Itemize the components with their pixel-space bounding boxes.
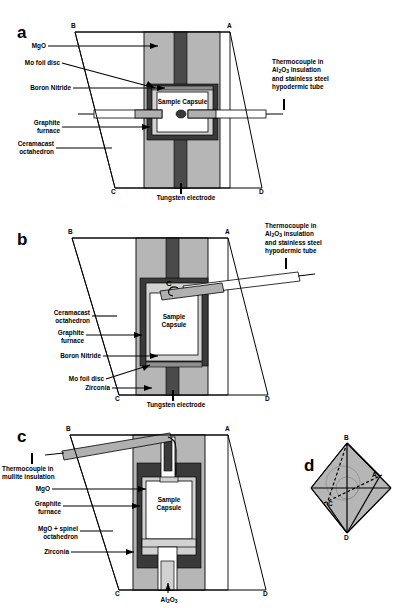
label-a-ceramacast-octahedron: Ceramacast octahedron	[0, 140, 54, 155]
panel-d-vertex-a: A	[372, 471, 377, 478]
mo-foil-disc-bottom	[146, 362, 202, 367]
panel-a-vertex-d: D	[259, 188, 264, 195]
panel-b-vertex-d: D	[265, 395, 270, 402]
label-a-mgo: MgO	[0, 42, 46, 50]
panel-a-section-tick-bottom	[180, 183, 182, 194]
panel-d-drawing	[0, 425, 402, 565]
label-b-thermocouple-note: Thermocouple inAl2O3 insulationand stain…	[265, 222, 393, 254]
label-a-graphite-furnace: Graphite furnace	[0, 119, 60, 134]
thermocouple-sheath-left	[135, 110, 162, 118]
panel-a: a MgO	[0, 0, 402, 200]
label-b-mo-foil-disc: Mo foil disc	[0, 375, 104, 383]
thermocouple-junction	[176, 110, 186, 118]
panel-d-vertex-d: D	[344, 534, 349, 541]
caption-a-tungsten-electrode: Tungsten electrode	[150, 194, 222, 202]
panel-b-section-tick-bottom	[172, 390, 174, 401]
thermocouple-sheath-right	[188, 110, 216, 118]
label-a-mo-foil-disc: Mo foil disc	[0, 59, 60, 67]
panel-c-vertex-d: D	[263, 590, 268, 597]
panel-a-vertex-a: A	[227, 22, 232, 29]
label-a-sample-capsule: Sample Capsule	[157, 98, 208, 106]
panel-b: b Ceramacast octahedron Graphite furnace…	[0, 210, 402, 405]
panel-b-section-tick-right	[285, 258, 287, 269]
panel-d-vertex-b: B	[344, 434, 349, 441]
panel-d: d B A C D	[0, 425, 402, 565]
panel-a-section-tick-right	[283, 99, 285, 110]
label-a-boron-nitride: Boron Nitride	[0, 84, 71, 92]
label-b-ceramacast-octahedron: Ceramacast octahedron	[0, 309, 90, 324]
label-b-zirconia: Zirconia	[0, 384, 110, 392]
panel-c-vertex-c: C	[115, 590, 120, 597]
panel-b-vertex-a: A	[225, 228, 230, 235]
label-a-thermocouple-note: Thermocouple inAl2O3 insulationand stain…	[272, 58, 397, 90]
label-b-graphite-furnace: Graphite furnace	[0, 329, 84, 344]
thermocouple-wire	[298, 274, 315, 276]
caption-b-tungsten-electrode: Tungsten electrode	[140, 401, 212, 409]
panel-b-vertex-c: C	[115, 395, 120, 402]
label-b-boron-nitride: Boron Nitride	[0, 352, 101, 360]
panel-b-inner-marker-c: C	[166, 279, 172, 288]
panel-a-vertex-c: C	[111, 188, 116, 195]
panel-a-vertex-b: B	[71, 22, 76, 29]
caption-c-alumina: Al2O3	[138, 596, 200, 606]
panel-b-vertex-b: B	[68, 228, 73, 235]
panel-d-vertex-c: C	[328, 500, 333, 507]
label-b-sample-capsule: Sample Capsule	[150, 313, 198, 328]
